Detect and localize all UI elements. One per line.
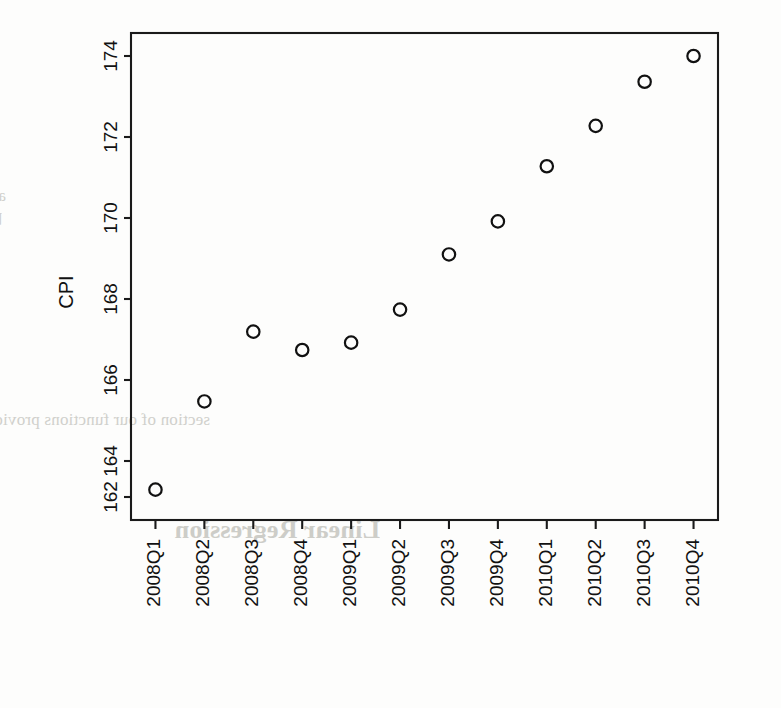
data-point: [687, 50, 699, 62]
y-tick-label: 164: [100, 445, 121, 477]
x-tick-label-2009Q1: 2009Q1: [339, 539, 360, 607]
y-axis-tick-162: 162: [100, 481, 131, 513]
x-tick-label-2010Q4: 2010Q4: [682, 539, 703, 607]
data-point: [492, 215, 504, 227]
x-tick-label-2008Q1: 2008Q1: [143, 539, 164, 607]
scanned-page: are included a listing of additional var…: [0, 0, 781, 708]
y-axis-title: CPI: [55, 275, 77, 308]
data-point: [149, 483, 161, 495]
y-tick-label: 174: [100, 40, 121, 72]
x-axis-ticks: [155, 520, 693, 529]
x-axis-tick-labels: 2008Q12008Q22008Q32008Q42009Q12009Q22009…: [143, 539, 702, 607]
plot-canvas: 174 172 170 168 166 164 162 CPI 2008Q120…: [0, 0, 781, 708]
x-tick-label-2008Q3: 2008Q3: [241, 539, 262, 607]
x-tick-label-2008Q4: 2008Q4: [290, 539, 311, 607]
data-point: [198, 395, 210, 407]
data-point: [443, 248, 455, 260]
x-tick-label-2009Q2: 2009Q2: [388, 539, 409, 607]
cpi-scatter-plot: 174 172 170 168 166 164 162 CPI 2008Q120…: [0, 0, 781, 708]
x-tick-label-2009Q4: 2009Q4: [486, 539, 507, 607]
data-point: [296, 344, 308, 356]
data-point: [638, 76, 650, 88]
data-point: [394, 303, 406, 315]
y-tick-label: 162: [100, 481, 121, 513]
data-point: [541, 160, 553, 172]
data-point: [590, 120, 602, 132]
data-point-series: [149, 50, 699, 496]
plot-box-frame: [131, 33, 718, 520]
y-axis-tick-labels: 174 172 170 168 166 164: [100, 40, 121, 477]
x-tick-label-2008Q2: 2008Q2: [192, 539, 213, 607]
y-tick-label: 170: [100, 202, 121, 234]
data-point: [247, 325, 259, 337]
y-tick-label: 172: [100, 121, 121, 153]
y-tick-label: 168: [100, 283, 121, 315]
x-tick-label-2010Q3: 2010Q3: [633, 539, 654, 607]
x-tick-label-2010Q2: 2010Q2: [584, 539, 605, 607]
data-point: [345, 336, 357, 348]
x-tick-label-2009Q3: 2009Q3: [437, 539, 458, 607]
x-tick-label-2010Q1: 2010Q1: [535, 539, 556, 607]
y-tick-label: 166: [100, 364, 121, 396]
